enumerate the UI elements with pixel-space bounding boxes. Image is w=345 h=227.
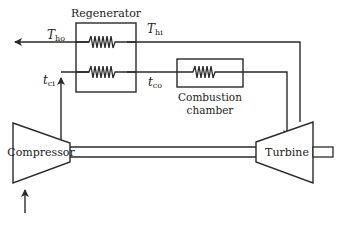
compressor-label: Compressor xyxy=(7,146,75,159)
regenerator: Regenerator xyxy=(71,7,142,92)
label-T-ho: Tho xyxy=(47,28,65,43)
output-shaft-stub xyxy=(313,147,333,157)
turbine-label: Turbine xyxy=(265,146,309,159)
regenerator-label: Regenerator xyxy=(71,7,142,20)
regenerative-gas-turbine-diagram: Regenerator Combustion chamber Compresso… xyxy=(0,0,345,227)
compressor: Compressor xyxy=(7,123,75,183)
compressed-air-flow-line xyxy=(61,72,287,140)
combustion-chamber-label-line2: chamber xyxy=(187,104,235,116)
combustion-chamber: Combustion chamber xyxy=(177,59,243,116)
label-T-hi: Thi xyxy=(147,22,163,37)
combustion-chamber-label-line1: Combustion xyxy=(178,91,242,103)
turbine: Turbine xyxy=(256,122,333,183)
label-t-co: tco xyxy=(148,75,162,90)
shaft xyxy=(70,147,256,157)
label-t-ci: tci xyxy=(43,73,55,88)
